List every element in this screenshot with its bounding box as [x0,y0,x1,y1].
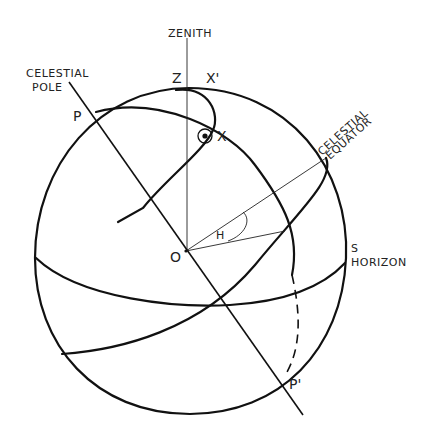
label-horizon: HORIZON [351,256,407,269]
label-celestial-pole-1: CELESTIAL [26,67,89,80]
label-o: O [170,249,181,265]
sphere-outline [35,88,346,414]
celestial-equator-circle [62,158,327,354]
celestial-sphere-figure: ZENITH CELESTIAL POLE P Z X' X CELESTIAL… [0,0,421,436]
star-x-dot [202,133,207,138]
label-p-prime: P' [289,376,301,392]
hour-circle-dashed [287,275,298,372]
horizon-circle [36,258,345,306]
label-x-prime: X' [206,70,219,86]
observer-point [184,249,187,252]
label-z: Z [172,70,182,86]
label-x: X [217,128,227,144]
label-h: H [216,229,225,242]
diurnal-circle [118,90,215,222]
label-celestial-pole-2: POLE [32,81,62,94]
label-south: S [351,242,358,255]
label-zenith: ZENITH [168,27,212,40]
diagram-canvas: ZENITH CELESTIAL POLE P Z X' X CELESTIAL… [0,0,421,436]
label-p: P [73,108,81,124]
hour-circle-arc [96,108,294,275]
